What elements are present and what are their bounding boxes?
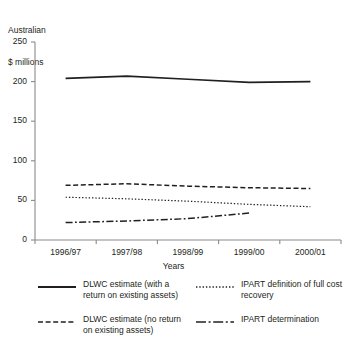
legend-label: IPART determination (241, 314, 319, 325)
legend-label: IPART definition of full cost recovery (241, 279, 346, 300)
y-axis-tick-label: 250 (0, 36, 27, 46)
y-axis-ticks (31, 42, 35, 240)
chart-figure: Australian $ millions 050100150200250 19… (0, 0, 347, 354)
legend-entry: DLWC estimate (with a return on existing… (38, 279, 188, 300)
legend-swatch-dashdot-icon (196, 317, 234, 327)
data-series-line (66, 184, 311, 189)
y-axis-tick-label: 100 (0, 155, 27, 165)
x-axis-tick-label: 1998/99 (157, 247, 218, 257)
x-axis-title: Years (0, 261, 347, 272)
y-axis-tick-label: 150 (0, 115, 27, 125)
x-axis-tick-label: 2000/01 (280, 247, 341, 257)
legend-swatch-dotted-icon (196, 282, 234, 292)
legend-entry: IPART determination (196, 314, 346, 325)
data-series-line (66, 76, 311, 82)
legend-entry: DLWC estimate (no return on existing ass… (38, 314, 188, 335)
x-axis-ticks (35, 240, 341, 244)
x-axis-tick-label: 1999/00 (219, 247, 280, 257)
chart-legend: DLWC estimate (with a return on existing… (38, 279, 343, 351)
legend-label: DLWC estimate (with a return on existing… (83, 279, 188, 300)
legend-entry: IPART definition of full cost recovery (196, 279, 346, 300)
y-axis-tick-label: 200 (0, 76, 27, 86)
y-axis-tick-label: 0 (0, 234, 27, 244)
legend-swatch-dashed-icon (38, 317, 76, 327)
x-axis-tick-label: 1996/97 (35, 247, 96, 257)
data-series-group (66, 76, 311, 223)
y-axis-tick-label: 50 (0, 194, 27, 204)
data-series-line (66, 213, 250, 223)
data-series-line (66, 197, 311, 207)
axis-lines (35, 42, 341, 240)
x-axis-tick-label: 1997/98 (96, 247, 157, 257)
legend-label: DLWC estimate (no return on existing ass… (83, 314, 188, 335)
legend-swatch-solid-icon (38, 282, 76, 292)
